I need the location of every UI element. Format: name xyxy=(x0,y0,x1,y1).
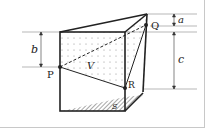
label-r: R xyxy=(128,80,135,90)
label-s: S xyxy=(112,102,118,111)
label-b: b xyxy=(31,43,38,56)
label-a: a xyxy=(178,14,184,25)
point-p xyxy=(58,65,62,69)
prism-diagram: P Q R V S a b c xyxy=(0,0,207,130)
frame-border-right xyxy=(204,0,205,128)
label-c: c xyxy=(178,53,184,66)
point-q xyxy=(144,23,148,27)
label-q: Q xyxy=(151,20,159,31)
prism-diagram-svg: P Q R V S a b c xyxy=(0,0,207,130)
point-r xyxy=(123,86,127,90)
label-p: P xyxy=(47,69,54,80)
frame-border-bottom xyxy=(0,127,205,128)
